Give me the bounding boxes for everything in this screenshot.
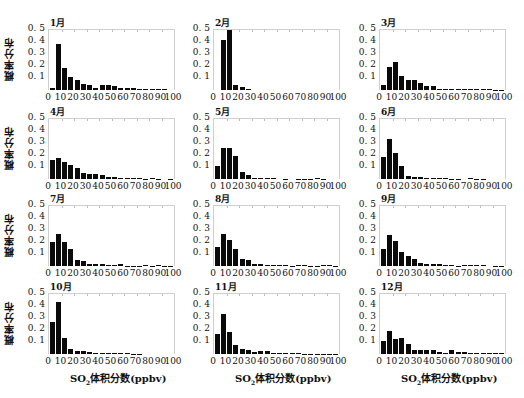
histogram-axes [48, 29, 175, 90]
histogram-bar [321, 265, 326, 266]
histogram-bar [493, 353, 498, 354]
histogram-bar [233, 156, 238, 179]
histogram-bar [137, 178, 142, 179]
axis-tick [405, 294, 406, 296]
histogram-bar [150, 89, 155, 90]
histogram-bar [112, 86, 117, 90]
axis-tick [87, 294, 88, 296]
x-tick-label: 100 [163, 92, 183, 102]
axis-tick [418, 294, 419, 296]
panel-title: 6月 [381, 105, 396, 118]
histogram-bar [93, 88, 98, 90]
histogram-bar [68, 349, 73, 354]
axis-tick [99, 294, 100, 296]
histogram-bar [125, 178, 130, 179]
x-tick-label: 100 [494, 268, 514, 278]
histogram-bar [449, 89, 454, 90]
histogram-bar [75, 80, 80, 90]
histogram-bar [468, 89, 473, 90]
y-tick-label: 0. 5 [23, 23, 45, 33]
histogram-bar [456, 89, 461, 90]
histogram-bar [387, 139, 392, 179]
axis-tick [418, 206, 419, 208]
axis-tick [480, 30, 481, 32]
y-tick-label: 0. 4 [188, 211, 210, 221]
histogram-bar [162, 89, 167, 90]
histogram-bar [412, 80, 417, 90]
y-tick-label: 0. 5 [23, 112, 45, 122]
histogram-bar [418, 177, 423, 179]
axis-tick [393, 30, 394, 32]
histogram-bar [227, 332, 232, 354]
axis-tick [455, 206, 456, 208]
y-tick-label: 0. 4 [23, 211, 45, 221]
histogram-bar [81, 261, 86, 266]
y-tick-label: 0. 4 [23, 299, 45, 309]
axis-tick [149, 119, 150, 121]
histogram-bar [118, 178, 123, 179]
axis-tick [430, 206, 431, 208]
axis-tick [314, 206, 315, 208]
histogram-bar [81, 173, 86, 179]
axis-tick [239, 294, 240, 296]
axis-tick [99, 30, 100, 32]
histogram-bar [487, 353, 492, 354]
histogram-bar [443, 178, 448, 179]
histogram-bar [271, 178, 276, 179]
y-tick-label: 0. 4 [23, 124, 45, 134]
x-tick-label: 100 [328, 268, 348, 278]
histogram-bar [431, 86, 436, 90]
y-tick-label: 0. 4 [354, 35, 376, 45]
axis-tick [289, 294, 290, 296]
axis-tick [314, 294, 315, 296]
axis-tick [124, 30, 125, 32]
axis-tick [162, 206, 163, 208]
y-tick-label: 0. 2 [23, 235, 45, 245]
axis-tick [480, 119, 481, 121]
histogram-bar [381, 85, 386, 90]
y-tick-label: 0. 1 [188, 71, 210, 81]
axis-tick [468, 30, 469, 32]
axis-tick [314, 119, 315, 121]
histogram-bar [283, 265, 288, 266]
histogram-bar [499, 353, 504, 354]
axis-tick [493, 206, 494, 208]
y-axis-label: 概率分布 [2, 213, 17, 257]
histogram-bar [50, 322, 55, 354]
axis-tick [289, 206, 290, 208]
histogram-bar [437, 178, 442, 179]
histogram-bar [246, 350, 251, 354]
histogram-axes [213, 29, 340, 90]
y-tick-label: 0. 3 [23, 47, 45, 57]
histogram-bar [271, 353, 276, 354]
axis-tick [74, 30, 75, 32]
histogram-bar [131, 88, 136, 90]
axis-tick [87, 30, 88, 32]
axis-tick [124, 119, 125, 121]
y-tick-label: 0. 3 [354, 311, 376, 321]
panel-title: 4月 [50, 105, 65, 118]
histogram-bar [227, 240, 232, 266]
histogram-bar [327, 265, 332, 266]
axis-tick [443, 119, 444, 121]
y-tick-label: 0. 1 [354, 160, 376, 170]
axis-tick [393, 294, 394, 296]
x-tick-label: 100 [163, 268, 183, 278]
histogram-bar [221, 314, 226, 354]
histogram-bar [468, 265, 473, 266]
histogram-axes [213, 205, 340, 266]
histogram-bar [277, 265, 282, 266]
panel-title: 5月 [215, 105, 230, 118]
axis-tick [239, 119, 240, 121]
axis-tick [87, 206, 88, 208]
histogram-bar [302, 265, 307, 266]
x-tick-label: 100 [494, 356, 514, 366]
y-tick-label: 0. 2 [188, 323, 210, 333]
axis-tick [302, 119, 303, 121]
axis-tick [443, 30, 444, 32]
histogram-bar [277, 353, 282, 354]
histogram-bar [233, 249, 238, 266]
axis-tick [393, 119, 394, 121]
y-axis-label: 概率分布 [2, 301, 17, 345]
histogram-bar [462, 89, 467, 90]
